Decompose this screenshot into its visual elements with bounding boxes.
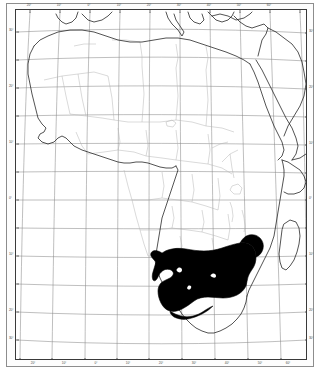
coastline-iberia-europe [56,12,112,24]
border-line [62,76,70,114]
border-line [76,132,88,154]
coastline-red-sea-east [256,60,298,160]
coastline-madagascar [279,220,300,270]
coastline-horn-of-africa [282,160,306,194]
distribution-range-group [151,235,264,320]
distribution-range-polygon [152,243,256,312]
meridian-line [20,12,30,359]
coastline-italy-balkans [166,12,234,36]
border-line [212,142,228,148]
border-line [208,164,232,174]
border-line [142,66,144,122]
meridian-line [85,12,90,359]
border-line [114,120,142,122]
parallel-line [17,86,307,89]
meridian-line [149,12,150,359]
border-line [206,46,208,70]
parallel-line [17,115,307,117]
parallel-line [17,228,307,229]
parallel-line [17,57,307,61]
border-line [228,214,230,240]
border-line [140,230,148,256]
map-neatline-frame [15,9,307,360]
lake-tanganyika [230,202,233,222]
lake-victoria [230,184,242,194]
parallel-line [17,340,307,344]
distribution-map-figure: 20° 10° 0° 10° 20° 30° 40° 50° 60° 20° 1… [0,0,321,373]
border-line [176,68,178,120]
coastline-turkey-levant [234,16,268,56]
border-line [202,232,228,240]
border-line [172,206,174,228]
inland-water-group [166,120,245,232]
border-line [132,200,140,230]
border-line [222,150,238,162]
border-line [218,178,220,210]
coastline-red-sea-west [250,64,284,160]
border-line [78,74,86,116]
border-line [176,44,178,68]
meridian-line [270,12,281,359]
meridian-line [300,12,307,359]
border-line [176,130,178,160]
parallel-line [17,29,307,33]
border-line [44,72,108,80]
border-line [124,170,132,200]
parallel-line [17,143,307,145]
border-line [108,76,114,120]
meridian-line [52,12,60,359]
parallel-line [17,312,307,315]
coastline-west-africa [28,46,176,168]
border-line [162,172,164,198]
meridian-line [117,12,120,359]
border-line [208,134,210,164]
border-line [140,42,142,66]
country-borders-group [44,40,238,260]
border-line [206,126,234,132]
border-line [146,156,176,160]
graticule-group [17,12,307,359]
border-line [230,154,234,178]
map-canvas [16,10,307,360]
border-line [192,174,194,202]
tick-marks-group [16,10,307,360]
border-line [206,70,208,126]
border-line [74,44,96,46]
border-line [118,150,146,156]
border-line [146,130,148,156]
border-line [192,202,218,210]
border-line [132,198,162,200]
